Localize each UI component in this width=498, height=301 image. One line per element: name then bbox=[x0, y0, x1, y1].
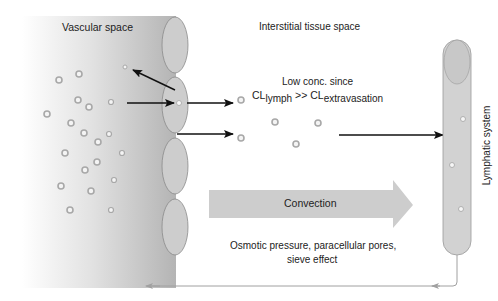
low-conc-label: Low conc. since bbox=[282, 76, 353, 87]
cl-symbol: CL bbox=[252, 89, 265, 101]
clearance-expression: CLlymph >> CLextravasation bbox=[252, 89, 383, 101]
lymph-subscript: lymph bbox=[265, 93, 292, 104]
convection-label: Convection bbox=[284, 197, 337, 209]
cl-symbol: CL bbox=[310, 89, 323, 101]
lymphatic-system-label: Lymphatic system bbox=[481, 96, 492, 196]
osmotic-label-line2: sieve effect bbox=[287, 254, 337, 265]
vascular-space bbox=[22, 16, 176, 288]
lymphatic-vessel bbox=[443, 40, 471, 255]
interstitial-space-label: Interstitial tissue space bbox=[259, 21, 360, 32]
interstitial-particles bbox=[238, 97, 321, 147]
vascular-space-label: Vascular space bbox=[62, 21, 133, 33]
endothelial-cell bbox=[162, 17, 188, 73]
pharmacokinetics-diagram bbox=[0, 0, 498, 301]
endothelial-cell bbox=[162, 199, 188, 255]
extravasation-subscript: extravasation bbox=[324, 93, 383, 104]
transcytosis-particle bbox=[177, 101, 182, 106]
osmotic-label-line1: Osmotic pressure, paracellular pores, bbox=[230, 240, 396, 251]
much-greater-symbol: >> bbox=[292, 89, 310, 101]
endothelial-cell bbox=[162, 138, 188, 194]
